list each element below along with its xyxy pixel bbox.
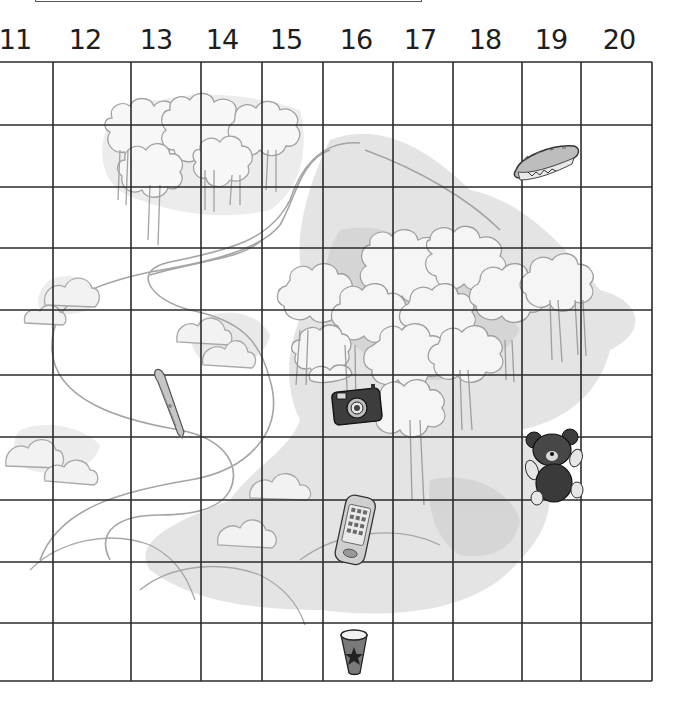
teddy-bear-icon bbox=[522, 428, 586, 506]
camera-icon bbox=[330, 383, 384, 427]
pen-icon bbox=[150, 366, 190, 440]
cup-icon bbox=[338, 627, 370, 677]
mobile-phone-icon bbox=[330, 494, 382, 568]
sandwich-icon bbox=[510, 140, 582, 182]
coordinate-grid bbox=[0, 0, 692, 714]
